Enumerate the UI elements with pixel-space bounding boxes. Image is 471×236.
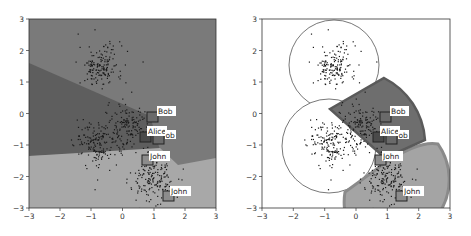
label-john-2: John xyxy=(403,187,421,196)
x-tick: −1 xyxy=(319,212,330,221)
y-tick: 2 xyxy=(252,47,257,56)
y-tick: −1 xyxy=(13,141,24,150)
y-tick: 0 xyxy=(19,110,24,119)
y-tick: 1 xyxy=(19,78,24,87)
y-tick: 2 xyxy=(19,47,24,56)
right-y-axis: 3 2 1 0 −1 −2 −3 xyxy=(246,15,262,213)
x-tick: −1 xyxy=(85,212,96,221)
x-tick: −3 xyxy=(256,212,267,221)
x-tick: 0 xyxy=(354,212,359,221)
x-tick: −3 xyxy=(23,212,34,221)
y-tick: −1 xyxy=(246,141,257,150)
y-tick: 0 xyxy=(252,110,257,119)
x-tick: 1 xyxy=(385,212,390,221)
marker-bob xyxy=(380,112,391,122)
left-plot: Bob Alice ob John John xyxy=(29,19,216,209)
y-tick: 3 xyxy=(252,15,257,24)
y-tick: −3 xyxy=(13,204,24,213)
left-x-axis: −3 −2 −1 0 1 2 3 xyxy=(23,208,218,221)
x-tick: 2 xyxy=(183,212,188,221)
x-tick: 2 xyxy=(416,212,421,221)
right-plot: Bob Alice ob John John xyxy=(262,19,450,212)
label-bob: Bob xyxy=(158,107,173,116)
label-alice: Alice xyxy=(381,127,399,136)
y-tick: 1 xyxy=(252,78,257,87)
x-tick: 3 xyxy=(448,212,453,221)
figure: Bob Alice ob John John −3 −2 −1 0 1 2 3 … xyxy=(0,0,471,236)
label-ob: ob xyxy=(399,131,409,140)
x-tick: 1 xyxy=(152,212,157,221)
marker-bob xyxy=(147,112,158,122)
y-tick: 3 xyxy=(19,15,24,24)
y-tick: −2 xyxy=(13,173,24,182)
label-john-1: John xyxy=(149,152,167,161)
label-ob: ob xyxy=(166,131,176,140)
y-tick: −2 xyxy=(246,173,257,182)
x-tick: 3 xyxy=(214,212,219,221)
label-john-1: John xyxy=(382,152,400,161)
label-john-2: John xyxy=(170,187,188,196)
label-bob: Bob xyxy=(391,107,406,116)
label-alice: Alice xyxy=(148,127,166,136)
left-y-axis: 3 2 1 0 −1 −2 −3 xyxy=(13,15,29,213)
x-tick: −2 xyxy=(54,212,65,221)
x-tick: −2 xyxy=(288,212,299,221)
y-tick: −3 xyxy=(246,204,257,213)
right-x-axis: −3 −2 −1 0 1 2 3 xyxy=(256,208,452,221)
x-tick: 0 xyxy=(120,212,125,221)
